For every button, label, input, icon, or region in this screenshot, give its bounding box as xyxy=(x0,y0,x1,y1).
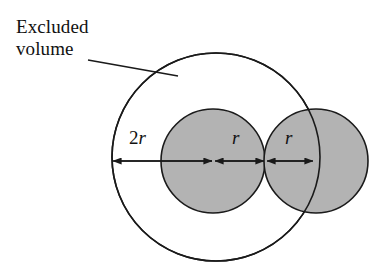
dimension-label-2r-symbol: r xyxy=(139,127,146,148)
caption-line-1: Excluded xyxy=(16,16,89,38)
excluded-volume-caption: Excluded volume xyxy=(16,16,89,61)
excluded-volume-figure: Excluded volume 2r r r xyxy=(0,0,383,271)
dimension-label-2r-prefix: 2 xyxy=(129,127,139,148)
dimension-label-2r: 2r xyxy=(129,127,146,149)
dimension-label-r-left: r xyxy=(232,127,239,149)
caption-line-2: volume xyxy=(16,38,89,60)
dimension-label-r-right: r xyxy=(285,127,292,149)
